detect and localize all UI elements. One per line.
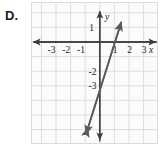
choice-letter-label: D.: [5, 8, 18, 23]
graph-svg: -3 -2 -1 1 2 3 1 -2 -3 y x: [31, 2, 158, 144]
coordinate-grid-graph: -3 -2 -1 1 2 3 1 -2 -3 y x: [31, 2, 158, 144]
x-tick-label: 2: [127, 45, 132, 55]
x-tick-label: -3: [48, 45, 56, 55]
y-tick-label: -2: [89, 67, 97, 77]
answer-choice-panel: D.: [0, 0, 163, 146]
y-tick-label: -3: [89, 81, 97, 91]
x-tick-label: 1: [113, 45, 118, 55]
x-axis-label: x: [148, 45, 154, 55]
y-tick-label: 1: [89, 23, 94, 33]
x-tick-label: 3: [142, 45, 147, 55]
x-tick-label: -1: [77, 45, 85, 55]
x-tick-label: -2: [62, 45, 70, 55]
y-axis-label: y: [104, 12, 110, 22]
